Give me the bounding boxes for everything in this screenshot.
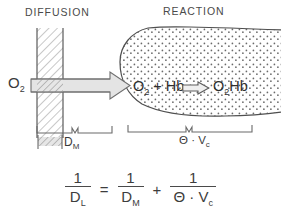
product-oxygen-symbol: O [213,78,224,94]
denominator: DL [70,187,86,208]
reaction-heading: REACTION [163,5,224,17]
dm-symbol: D [121,188,132,205]
fraction-one-over-theta-vc: 1 Θ · Vc [170,170,216,208]
reactant-oxygen-subscript: 2 [144,87,149,97]
equals-sign: = [98,181,111,198]
diffusion-heading: DIFFUSION [25,6,90,18]
capillary-blob [120,27,281,116]
numerator: 1 [189,170,197,186]
oxygen-symbol: O [8,74,20,91]
fraction-one-over-dm: 1 DM [118,170,144,208]
dl-symbol: D [70,188,81,205]
diffusing-capacity-equation: 1 DL = 1 DM + 1 Θ · Vc [0,160,281,218]
product-hemoglobin-symbol: Hb [229,78,248,94]
figure-canvas: DIFFUSION REACTION O2 O2 + Hb O2Hb DM Θ … [0,0,281,220]
plus-operator: + [153,78,161,94]
membrane-thickness-marker [38,135,62,149]
membrane-diffusing-capacity-label: DM [64,135,79,151]
denominator: Θ · Vc [172,187,216,208]
theta-vc-symbol: Θ · V [174,188,209,205]
oxygen-subscript: 2 [20,84,25,94]
denominator: DM [121,187,139,208]
dl-subscript: L [81,198,86,208]
plus-sign: + [151,181,164,198]
numerator: 1 [74,170,82,186]
theta-vc-subscript: c [209,198,214,208]
dm-subscript: M [73,142,80,151]
oxygen-label: O2 [8,74,25,94]
reactant-oxygen-symbol: O [133,78,144,94]
capillary-brace [128,125,252,132]
reaction-reactants: O2 + Hb [133,78,184,97]
dm-symbol: D [64,135,73,149]
reaction-arrow-icon [182,81,210,95]
reaction-product: O2Hb [213,78,248,97]
capillary-volume-label: Θ · Vc [179,134,210,149]
theta-vc-symbol: Θ · V [179,134,206,146]
fraction-one-over-dl: 1 DL [65,170,91,208]
numerator: 1 [126,170,134,186]
theta-vc-subscript: c [206,140,210,149]
dm-subscript: M [132,198,140,208]
